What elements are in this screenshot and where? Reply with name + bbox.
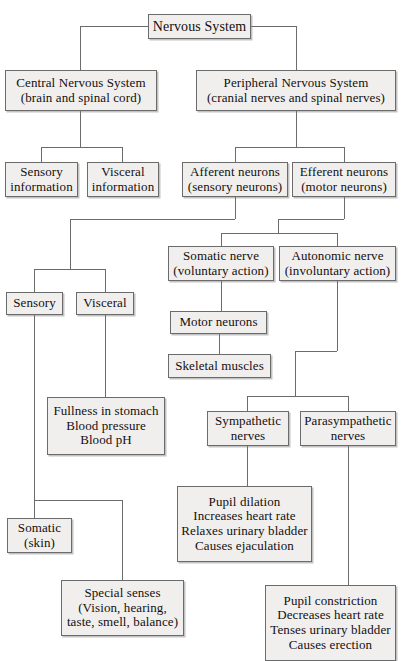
node-label: Nervous System [149, 19, 250, 35]
node-sensory-information: Sensory information [5, 162, 78, 197]
node-skeletal-muscles: Skeletal muscles [168, 354, 271, 378]
node-label: Sympathetic nerves [208, 414, 288, 443]
node-label: Parasympathetic nerves [301, 414, 395, 443]
node-label: Special senses (Vision, hearing, taste, … [62, 586, 183, 630]
nervous-system-flowchart: Nervous System Central Nervous System (b… [0, 0, 406, 661]
node-afferent-neurons: Afferent neurons (sensory neurons) [182, 162, 288, 197]
node-label: Visceral information [88, 165, 158, 194]
node-label: Sensory information [6, 165, 77, 194]
node-label: Motor neurons [171, 315, 266, 330]
node-label: Pupil constriction Decreases heart rate … [266, 594, 395, 652]
node-central-nervous-system: Central Nervous System (brain and spinal… [5, 70, 157, 111]
node-label: Peripheral Nervous System (cranial nerve… [197, 76, 395, 105]
node-label: Autonomic nerve (involuntary action) [280, 249, 395, 278]
node-label: Pupil dilation Increases heart rate Rela… [178, 495, 311, 553]
node-visceral-information: Visceral information [87, 162, 159, 197]
edge-ns-to-pns [251, 26, 296, 70]
node-motor-neurons: Motor neurons [170, 311, 267, 334]
node-label: Central Nervous System (brain and spinal… [6, 76, 156, 105]
node-label: Efferent neurons (motor neurons) [293, 165, 395, 194]
node-nervous-system: Nervous System [148, 14, 251, 39]
node-visceral: Visceral [76, 292, 134, 315]
node-label: Skeletal muscles [169, 359, 270, 374]
node-parasympathetic-effects: Pupil constriction Decreases heart rate … [265, 585, 396, 661]
node-sympathetic-effects: Pupil dilation Increases heart rate Rela… [177, 486, 312, 562]
node-sympathetic-nerves: Sympathetic nerves [207, 411, 289, 446]
node-autonomic-nerve: Autonomic nerve (involuntary action) [279, 246, 396, 281]
node-label: Sensory [7, 296, 62, 311]
node-parasympathetic-nerves: Parasympathetic nerves [300, 411, 396, 446]
node-special-senses: Special senses (Vision, hearing, taste, … [61, 580, 184, 636]
node-label: Somatic (skin) [8, 521, 71, 550]
node-label: Visceral [77, 296, 133, 311]
node-sensory: Sensory [6, 292, 63, 315]
node-visceral-sensations: Fullness in stomach Blood pressure Blood… [47, 397, 165, 455]
node-label: Somatic nerve (voluntary action) [169, 249, 273, 278]
node-peripheral-nervous-system: Peripheral Nervous System (cranial nerve… [196, 70, 396, 111]
node-label: Afferent neurons (sensory neurons) [183, 165, 287, 194]
node-somatic-skin: Somatic (skin) [7, 518, 72, 553]
node-efferent-neurons: Efferent neurons (motor neurons) [292, 162, 396, 197]
node-somatic-nerve: Somatic nerve (voluntary action) [168, 246, 274, 281]
edge-ns-to-cns [80, 26, 148, 70]
node-label: Fullness in stomach Blood pressure Blood… [48, 404, 164, 448]
